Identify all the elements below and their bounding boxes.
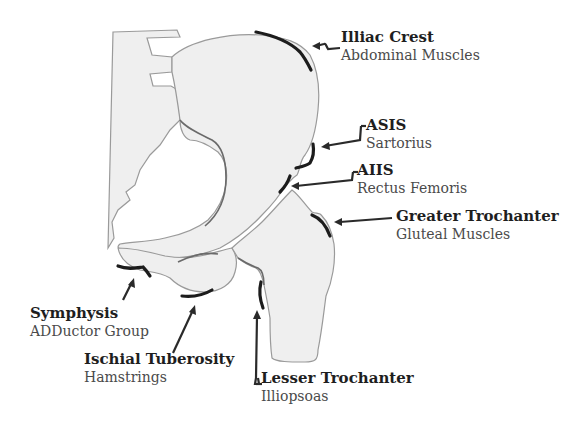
label-title: Greater Trochanter [396, 209, 559, 224]
symphysis-mark[interactable] [118, 266, 150, 276]
label-title: ASIS [366, 118, 432, 133]
label-subtitle: ADDuctor Group [30, 324, 149, 338]
label-title: Ischial Tuberosity [84, 352, 234, 367]
label-symphysis: Symphysis ADDuctor Group [30, 306, 149, 338]
aiis-arrow [291, 172, 358, 190]
label-title: Lesser Trochanter [261, 371, 414, 386]
label-subtitle: Abdominal Muscles [341, 48, 480, 62]
label-title: AIIS [357, 163, 467, 178]
label-subtitle: Illiopsoas [261, 389, 414, 403]
iliac-crest-arrow [312, 42, 340, 50]
label-subtitle: Rectus Femoris [357, 181, 467, 195]
sacrum-shape [108, 30, 180, 248]
label-title: Symphysis [30, 306, 149, 321]
symphysis-arrow [123, 278, 135, 300]
label-asis: ASIS Sartorius [366, 118, 432, 150]
ischial-tuberosity-arrow [173, 305, 196, 353]
label-subtitle: Gluteal Muscles [396, 227, 559, 241]
label-aiis: AIIS Rectus Femoris [357, 163, 467, 195]
label-iliac-crest: Illiac Crest Abdominal Muscles [341, 30, 480, 62]
label-title: Illiac Crest [341, 30, 480, 45]
label-subtitle: Sartorius [366, 136, 432, 150]
label-subtitle: Hamstrings [84, 370, 234, 384]
lesser-trochanter-mark[interactable] [260, 282, 263, 308]
label-lesser-trochanter: Lesser Trochanter Illiopsoas [261, 371, 414, 403]
label-greater-trochanter: Greater Trochanter Gluteal Muscles [396, 209, 559, 241]
label-ischial-tuberosity: Ischial Tuberosity Hamstrings [84, 352, 234, 384]
greater-trochanter-arrow [334, 218, 392, 226]
asis-arrow [321, 126, 366, 150]
